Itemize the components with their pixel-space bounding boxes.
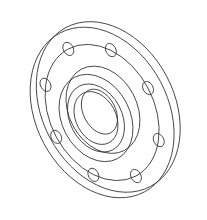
bolt-circle bbox=[22, 24, 181, 200]
bolt-holes bbox=[15, 16, 190, 209]
hub-front bbox=[44, 61, 147, 174]
hub-back bbox=[51, 53, 154, 166]
flange-back-rim bbox=[8, 0, 207, 217]
bore-ring-outer bbox=[56, 74, 136, 162]
flange-svg bbox=[0, 0, 207, 220]
flange-drawing bbox=[0, 0, 207, 220]
